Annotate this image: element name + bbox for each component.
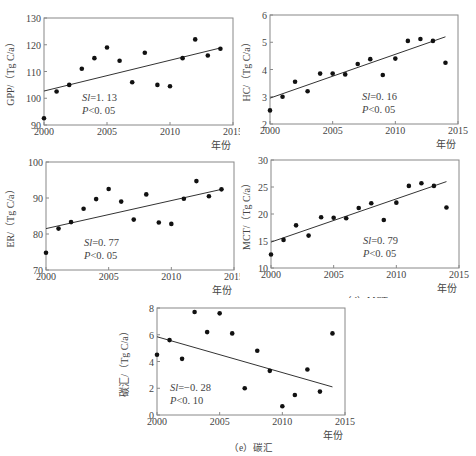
data-point xyxy=(42,116,47,121)
data-point xyxy=(393,56,398,61)
data-point xyxy=(443,60,448,65)
x-tick-label: 2015 xyxy=(448,125,468,136)
data-point xyxy=(294,223,299,228)
y-tick-label: 90 xyxy=(33,193,43,204)
data-point xyxy=(94,197,99,202)
trend-line xyxy=(157,337,332,387)
x-tick-label: 2010 xyxy=(161,271,181,282)
data-point xyxy=(130,80,135,85)
chart-panel-d: 10152025302000200520102015MCT/（Tg C/a）年份… xyxy=(236,148,476,298)
y-tick-label: 2 xyxy=(149,383,154,394)
chart-panel-c: 7080901002000200520102015ER/（Tg C/a）年份（c… xyxy=(0,148,240,298)
data-point xyxy=(169,222,174,227)
p-value-annotation: P<0. 05 xyxy=(362,248,396,259)
x-tick-label: 2005 xyxy=(324,269,344,280)
y-tick-label: 120 xyxy=(26,40,41,51)
data-point xyxy=(281,238,286,243)
data-point xyxy=(105,45,110,50)
data-point xyxy=(318,389,323,394)
data-point xyxy=(382,218,387,223)
slope-annotation: Sl=0. 77 xyxy=(84,237,119,248)
y-tick-label: 130 xyxy=(26,13,41,24)
data-point xyxy=(193,37,198,42)
data-point xyxy=(180,357,185,362)
data-point xyxy=(418,37,423,42)
data-point xyxy=(280,404,285,409)
y-tick-label: 30 xyxy=(258,155,268,166)
x-tick-label: 2010 xyxy=(386,269,406,280)
data-point xyxy=(319,215,324,220)
data-point xyxy=(344,216,349,221)
y-tick-label: 8 xyxy=(149,303,154,314)
data-point xyxy=(144,192,149,197)
data-point xyxy=(219,187,224,192)
data-point xyxy=(269,252,274,257)
data-point xyxy=(155,83,160,88)
data-point xyxy=(69,220,74,225)
x-tick-label: 2005 xyxy=(323,125,343,136)
data-point xyxy=(92,56,97,61)
data-point xyxy=(356,206,361,211)
scatter-plot-carbon-sink: 024682000200520102015碳汇/（Tg C/a）年份（e）碳汇S… xyxy=(110,296,360,456)
slope-annotation: Sl=0. 79 xyxy=(363,235,398,246)
x-axis-label: 年份 xyxy=(212,284,232,296)
data-point xyxy=(330,331,335,336)
data-point xyxy=(268,108,273,113)
plot-frame xyxy=(46,162,234,270)
y-tick-label: 4 xyxy=(149,357,154,368)
p-value-annotation: P<0. 05 xyxy=(361,104,395,115)
y-tick-label: 15 xyxy=(258,236,268,247)
x-tick-label: 2010 xyxy=(160,126,180,137)
data-point xyxy=(306,233,311,238)
x-tick-label: 2000 xyxy=(36,271,56,282)
x-axis-label: 年份 xyxy=(323,429,343,441)
x-tick-label: 2010 xyxy=(385,125,405,136)
data-point xyxy=(56,226,61,231)
data-point xyxy=(143,50,148,55)
trend-line xyxy=(270,37,445,98)
data-point xyxy=(54,89,59,94)
chart-panel-e: 024682000200520102015碳汇/（Tg C/a）年份（e）碳汇S… xyxy=(110,296,360,456)
p-value-annotation: P<0. 05 xyxy=(81,105,115,116)
x-tick-label: 2015 xyxy=(449,269,469,280)
y-axis-label: 碳汇/（Tg C/a） xyxy=(118,326,130,396)
y-axis-label: GPP/（Tg C/a） xyxy=(5,37,16,106)
scatter-plot-hc: 234562000200520102015HC/（Tg C/a）年份（b）HCS… xyxy=(236,0,476,150)
x-axis-label: 年份 xyxy=(437,282,457,294)
y-tick-label: 6 xyxy=(262,10,267,21)
p-value-annotation: P<0. 10 xyxy=(169,395,203,406)
y-tick-label: 80 xyxy=(33,229,43,240)
data-point xyxy=(381,73,386,78)
data-point xyxy=(206,53,211,58)
y-tick-label: 100 xyxy=(26,93,41,104)
y-tick-label: 3 xyxy=(262,92,267,103)
plot-frame xyxy=(44,18,233,125)
y-tick-label: 25 xyxy=(258,182,268,193)
slope-annotation: Sl=0. 16 xyxy=(362,91,397,102)
x-tick-label: 2000 xyxy=(34,126,54,137)
slope-annotation: Sl=−0. 28 xyxy=(170,382,211,393)
y-tick-label: 110 xyxy=(26,67,41,78)
x-tick-label: 2015 xyxy=(335,416,355,427)
data-point xyxy=(44,250,49,255)
data-point xyxy=(131,217,136,222)
data-point xyxy=(318,71,323,76)
data-point xyxy=(407,184,412,189)
data-point xyxy=(406,39,411,44)
data-point xyxy=(268,369,273,374)
data-point xyxy=(106,187,111,192)
x-tick-label: 2010 xyxy=(272,416,292,427)
y-tick-label: 20 xyxy=(258,209,268,220)
data-point xyxy=(343,72,348,77)
data-point xyxy=(80,67,85,72)
x-tick-label: 2005 xyxy=(97,126,117,137)
x-tick-label: 2005 xyxy=(210,416,230,427)
data-point xyxy=(230,331,235,336)
chart-panel-a: 901001101201302000200520102015GPP/（Tg C/… xyxy=(0,0,240,150)
data-point xyxy=(81,207,86,212)
data-point xyxy=(305,89,310,94)
data-point xyxy=(255,349,260,354)
y-tick-label: 5 xyxy=(262,37,267,48)
chart-panel-b: 234562000200520102015HC/（Tg C/a）年份（b）HCS… xyxy=(236,0,476,150)
data-point xyxy=(180,56,185,61)
